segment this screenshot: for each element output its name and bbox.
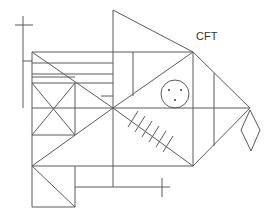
roof-lines xyxy=(113,10,250,108)
hatch-ticks xyxy=(128,111,173,152)
diamond-shape xyxy=(241,110,260,151)
lower-diagonals xyxy=(32,108,250,166)
x-box xyxy=(32,83,75,135)
line-diagram xyxy=(0,0,272,219)
cft-label: CFT xyxy=(196,31,217,42)
bottom-box xyxy=(32,166,170,207)
left-cross xyxy=(15,16,33,108)
circle-symbol xyxy=(161,80,189,108)
diagonal-upper-left xyxy=(32,52,113,108)
